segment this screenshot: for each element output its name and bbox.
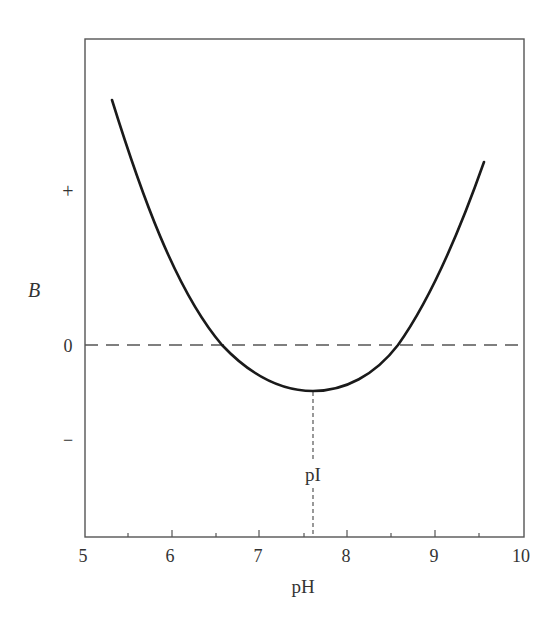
pI-label: pI bbox=[305, 464, 321, 485]
x-tick-5: 5 bbox=[79, 546, 88, 566]
x-tick-7: 7 bbox=[254, 546, 263, 566]
y-axis-label: B bbox=[28, 279, 40, 301]
x-tick-10: 10 bbox=[512, 546, 530, 566]
y-tick-plus: + bbox=[62, 180, 73, 202]
x-tick-8: 8 bbox=[342, 546, 351, 566]
y-tick-zero: 0 bbox=[64, 336, 73, 356]
y-tick-minus: − bbox=[63, 430, 73, 450]
titration-chart: + 0 − B pI 5 6 7 8 9 10 pH bbox=[0, 0, 556, 619]
x-axis-ticks bbox=[128, 530, 479, 537]
x-tick-6: 6 bbox=[166, 546, 175, 566]
plot-frame bbox=[85, 39, 524, 537]
buffer-capacity-curve bbox=[112, 100, 484, 391]
x-tick-9: 9 bbox=[430, 546, 439, 566]
x-axis-label: pH bbox=[291, 576, 315, 597]
